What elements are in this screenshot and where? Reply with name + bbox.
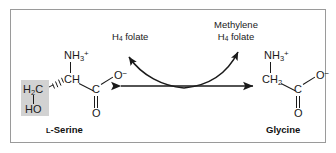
stereo-hash-wedge (53, 78, 64, 89)
wedge-to-side-chain-bond (49, 85, 53, 87)
reaction-diagram: NH3+ CH H2C HO C O− O L-Serine NH3+ CH2 (0, 0, 336, 153)
arrow-layer (0, 0, 336, 153)
curved-arrow-left (129, 57, 184, 88)
curved-arrow-right (184, 52, 238, 88)
